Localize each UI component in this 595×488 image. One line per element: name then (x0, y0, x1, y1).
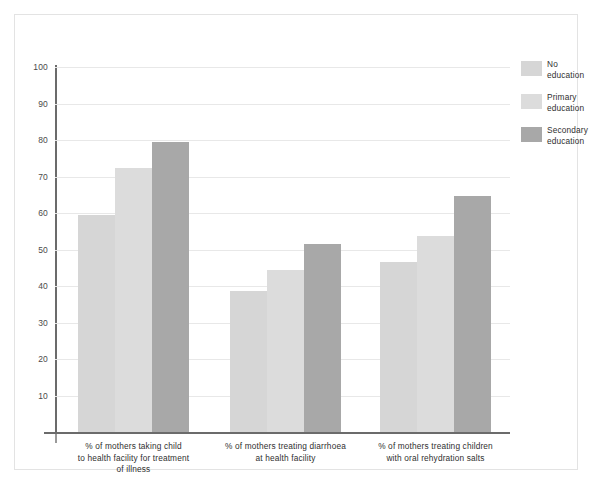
legend-item[interactable]: Secondaryeducation (521, 125, 595, 153)
legend-label-line: Secondary (547, 125, 588, 136)
y-axis-tick-label: 30 (38, 318, 48, 328)
category-label-line: to health facility for treatment (49, 453, 219, 465)
y-axis-tick-label: 10 (38, 391, 48, 401)
y-axis-tick-label: 20 (38, 354, 48, 364)
bar (304, 244, 341, 432)
bar (115, 168, 152, 432)
legend-label: Primaryeducation (547, 92, 584, 113)
x-axis-category-label: % of mothers taking childto health facil… (49, 441, 219, 476)
category-label-line: % of mothers treating diarrhoea (201, 441, 371, 453)
category-label-line: with oral rehydration salts (351, 453, 521, 465)
legend-label: Secondaryeducation (547, 125, 588, 146)
legend-swatch-icon (521, 127, 542, 142)
y-axis-tick-label: 50 (38, 245, 48, 255)
plot-area: 100908070605040302010 (55, 67, 510, 432)
gridline (55, 104, 510, 105)
legend-label-line: education (547, 136, 588, 147)
bar (417, 236, 454, 432)
category-label-line: of illness (49, 464, 219, 476)
y-axis-tick-label: 80 (38, 135, 48, 145)
bar (230, 291, 267, 432)
legend-label-line: Primary (547, 92, 584, 103)
y-axis-tick-label: 100 (33, 62, 48, 72)
x-axis-category-label: % of mothers treating diarrhoeaat health… (201, 441, 371, 464)
bar (267, 270, 304, 432)
x-axis-line (44, 432, 510, 434)
bar (380, 262, 417, 432)
legend-label-line: education (547, 70, 584, 81)
y-axis-tick-label: 40 (38, 281, 48, 291)
bar (454, 196, 491, 432)
category-label-line: at health facility (201, 453, 371, 465)
category-label-line: % of mothers treating children (351, 441, 521, 453)
y-axis-tick-label: 90 (38, 99, 48, 109)
legend-swatch-icon (521, 61, 542, 76)
bar (152, 142, 189, 432)
legend-swatch-icon (521, 94, 542, 109)
chart-legend: NoeducationPrimaryeducationSecondaryeduc… (521, 59, 595, 158)
legend-label-line: education (547, 103, 584, 114)
bar (78, 215, 115, 432)
legend-label: Noeducation (547, 59, 584, 80)
y-axis-tick-label: 70 (38, 172, 48, 182)
gridline (55, 140, 510, 141)
legend-label-line: No (547, 59, 584, 70)
gridline (55, 67, 510, 68)
legend-item[interactable]: Noeducation (521, 59, 595, 87)
y-axis-tick-label: 60 (38, 208, 48, 218)
x-axis-category-label: % of mothers treating childrenwith oral … (351, 441, 521, 464)
category-label-line: % of mothers taking child (49, 441, 219, 453)
legend-item[interactable]: Primaryeducation (521, 92, 595, 120)
chart-frame: 100908070605040302010 % of mothers takin… (14, 14, 578, 470)
